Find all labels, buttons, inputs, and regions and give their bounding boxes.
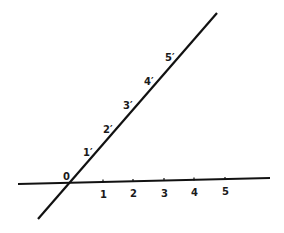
o-label-3: 3′ — [123, 100, 133, 111]
o-label-1: 1′ — [83, 147, 93, 158]
h-label-1: 1 — [100, 189, 107, 200]
diagram-svg: 0 1 2 3 4 5 1′ 2′ 3′ 4′ 5′ — [0, 0, 284, 233]
origin-label: 0 — [63, 171, 70, 182]
h-label-2: 2 — [130, 188, 137, 199]
o-label-5: 5′ — [165, 52, 175, 63]
h-label-5: 5 — [222, 186, 229, 197]
h-label-4: 4 — [191, 187, 198, 198]
o-label-4: 4′ — [144, 76, 154, 87]
horizontal-line — [18, 178, 270, 184]
o-label-2: 2′ — [103, 124, 113, 135]
diagram-canvas: 0 1 2 3 4 5 1′ 2′ 3′ 4′ 5′ — [0, 0, 284, 233]
h-label-3: 3 — [161, 188, 168, 199]
